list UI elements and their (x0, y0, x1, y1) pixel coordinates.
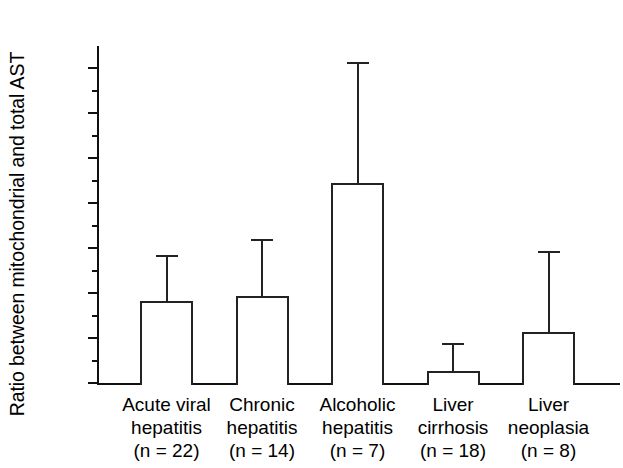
error-bar-cap (156, 255, 178, 257)
y-tick-minor (92, 225, 97, 227)
y-tick-major (88, 337, 97, 339)
error-bar-cap (347, 62, 369, 64)
error-bar-line (452, 343, 454, 371)
y-tick-minor (92, 315, 97, 317)
plot-area: 0.000.040.080.120.160.200.240.28 (97, 46, 620, 385)
bar (522, 332, 575, 385)
x-category-line-1: Liver (489, 393, 609, 416)
error-bar-line (548, 251, 550, 332)
y-axis-title: Ratio between mitochondrial and total AS… (0, 0, 34, 468)
error-bar-cap (442, 343, 464, 345)
y-tick-major (88, 157, 97, 159)
y-tick-minor (92, 90, 97, 92)
x-category-line-3: (n = 8) (489, 439, 609, 462)
x-category-label: Liverneoplasia(n = 8) (489, 393, 609, 462)
error-bar-line (357, 62, 359, 182)
y-tick-minor (92, 270, 97, 272)
y-tick-major (88, 112, 97, 114)
y-tick-minor (92, 360, 97, 362)
bar (140, 301, 193, 385)
error-bar-line (166, 255, 168, 301)
bar (236, 296, 289, 385)
x-category-line-2: neoplasia (489, 416, 609, 439)
y-tick-major (88, 67, 97, 69)
error-bar-cap (538, 251, 560, 253)
error-bar-line (261, 239, 263, 296)
bar (427, 371, 480, 385)
y-tick-minor (92, 135, 97, 137)
y-tick-major (88, 382, 97, 384)
y-tick-minor (92, 180, 97, 182)
bar (331, 183, 384, 385)
chart-figure: Ratio between mitochondrial and total AS… (0, 0, 623, 468)
error-bar-cap (251, 239, 273, 241)
y-tick-major (88, 202, 97, 204)
y-axis-line (97, 46, 99, 385)
y-tick-major (88, 292, 97, 294)
y-tick-major (88, 247, 97, 249)
